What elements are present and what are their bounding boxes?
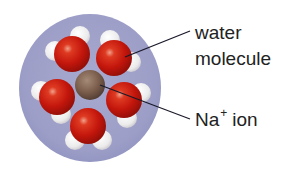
oxygen-atom [39,79,75,115]
ion-label: Na+ion [195,110,258,129]
ion-symbol: Na [195,109,219,130]
oxygen-atom [54,36,90,72]
ion-charge: + [220,106,227,120]
water-label-line1: water [195,23,241,42]
ion-suffix: ion [232,109,257,130]
hydration-shell-illustration [0,0,305,172]
hydration-diagram: water molecule Na+ion [0,0,305,172]
oxygen-atom [106,82,142,118]
oxygen-atom [96,40,132,76]
oxygen-atom [70,108,106,144]
water-label-line2: molecule [195,49,271,68]
